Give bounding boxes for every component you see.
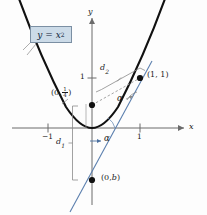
equation-label-text: y = x — [37, 30, 60, 40]
equation-label-box: y = x2 — [30, 26, 72, 43]
x-tick-label-1: 1 — [137, 133, 142, 141]
focus-label-close: ) — [68, 88, 71, 97]
x-tick-label-neg1: −1 — [42, 133, 53, 141]
angle-label-alpha-upper: α — [117, 94, 123, 103]
equation-label-exponent: 2 — [61, 31, 65, 38]
parabola-tangent-figure: y = x2 x y −1 1 1 (0,14) (1, 1) (0,b) d2… — [0, 0, 207, 215]
point-label-focus: (0,14) — [51, 87, 71, 100]
d2-dashed-segment — [92, 78, 140, 105]
d1-subscript: 1 — [61, 142, 65, 149]
b-label-prefix: (0, — [101, 173, 112, 182]
y-tick-label-1: 1 — [80, 73, 85, 81]
eq-label-leader — [23, 43, 36, 55]
point-label-0-b: (0,b) — [101, 174, 120, 182]
distance-label-d1: d1 — [56, 138, 65, 148]
focus-fraction-denominator: 4 — [62, 92, 68, 99]
focus-label-fraction: 14 — [62, 87, 68, 100]
point-0-b — [89, 177, 95, 183]
distance-label-d2: d2 — [100, 64, 109, 74]
point-focus — [89, 102, 95, 108]
y-axis-label: y — [88, 8, 93, 16]
focus-label-open: (0, — [51, 88, 62, 97]
x-axis-label: x — [189, 123, 194, 131]
angle-label-alpha-lower: α — [104, 134, 110, 143]
point-curve-1-1 — [137, 75, 143, 81]
point-label-1-1: (1, 1) — [147, 71, 169, 79]
d2-bracket-tip — [117, 78, 121, 82]
b-label-close: ) — [117, 173, 120, 182]
d2-subscript: 2 — [105, 68, 109, 75]
